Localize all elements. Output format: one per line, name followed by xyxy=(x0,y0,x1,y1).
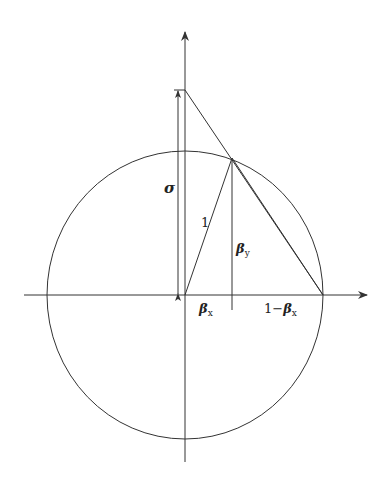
diagram-canvas: σ 1 βy βx 1−βx xyxy=(0,0,390,486)
one-minus-beta-x-label: 1−βx xyxy=(264,301,297,318)
chord-line xyxy=(232,158,323,295)
beta-x-label: βx xyxy=(198,301,213,318)
radius-label: 1 xyxy=(201,215,209,230)
beta-y-label: βy xyxy=(235,241,251,258)
sigma-label: σ xyxy=(164,179,176,197)
